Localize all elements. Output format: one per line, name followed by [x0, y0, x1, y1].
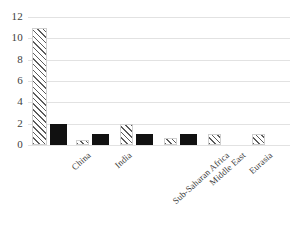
y-tick-label: 2 [17, 118, 23, 129]
plot-area [28, 17, 290, 145]
y-tick-label: 12 [12, 11, 23, 22]
bar-middle-east-hatched [164, 138, 177, 145]
bar-india-solid [92, 134, 109, 145]
bar-eurasia-hatched [208, 134, 221, 145]
bar-group-middle-east [164, 17, 204, 145]
y-tick-label: 4 [17, 96, 23, 107]
bar-group-eurasia [208, 17, 248, 145]
y-tick-label: 0 [17, 139, 23, 150]
y-tick-label: 10 [12, 32, 23, 43]
y-tick-label: 8 [17, 54, 23, 65]
bar-sub-saharan-africa-solid [136, 134, 153, 145]
bar-latin-america-hatched [252, 134, 265, 145]
bar-group-china [32, 17, 72, 145]
bar-groups [28, 17, 290, 145]
y-tick-label: 6 [17, 75, 23, 86]
bar-china-solid [50, 124, 67, 145]
x-label-india: India [113, 150, 134, 170]
bar-group-india [76, 17, 116, 145]
bar-group-latin-america [252, 17, 292, 145]
bar-sub-saharan-africa-hatched [120, 124, 133, 145]
bar-chart: 12 10 8 6 4 2 0 [0, 0, 297, 233]
x-label-eurasia: Eurasia [247, 150, 274, 176]
x-axis-labels: China India Sub-Saharan Africa Middle Ea… [28, 145, 290, 233]
bar-group-sub-saharan-africa [120, 17, 160, 145]
y-axis: 12 10 8 6 4 2 0 [0, 0, 28, 162]
bar-china-hatched [32, 28, 47, 145]
x-label-china: China [70, 150, 93, 172]
bar-middle-east-solid [180, 134, 197, 145]
